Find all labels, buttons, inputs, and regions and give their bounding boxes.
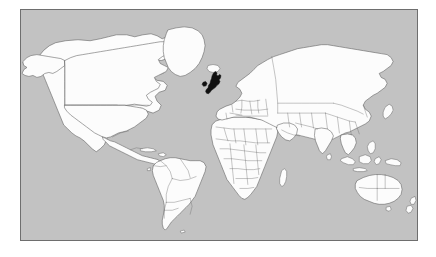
page-root	[0, 0, 436, 257]
coastline-iceland	[207, 65, 220, 73]
world-map[interactable]	[21, 10, 417, 240]
map-frame	[20, 9, 418, 241]
